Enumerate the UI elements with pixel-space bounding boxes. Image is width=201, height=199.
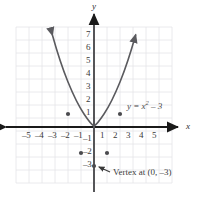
point-1-neg2 <box>105 151 109 155</box>
graph-figure: y x –5 –4 –3 –2 –1 1 2 3 4 5 7 6 5 4 3 2… <box>0 0 201 199</box>
x-tick--4: –4 <box>35 131 44 140</box>
x-tick-2: 2 <box>113 131 117 140</box>
point-2-1 <box>118 112 122 116</box>
equation-prefix: y = x <box>127 101 146 111</box>
point-neg2-1 <box>66 112 70 116</box>
x-axis-label: x <box>186 122 190 131</box>
y-tick-6: 6 <box>86 43 90 52</box>
x-tick-5: 5 <box>152 131 156 140</box>
y-tick-4: 4 <box>86 69 90 78</box>
y-tick-7: 7 <box>86 30 90 39</box>
x-tick-4: 4 <box>139 131 143 140</box>
x-tick--3: –3 <box>48 131 57 140</box>
vertex-pointer-arrow <box>99 167 110 172</box>
equation-suffix: – 3 <box>149 101 163 111</box>
y-tick--1: –1 <box>83 134 92 143</box>
y-tick-3: 3 <box>86 82 90 91</box>
y-tick--2: –2 <box>83 147 92 156</box>
y-tick--3: –3 <box>83 160 92 169</box>
y-tick-5: 5 <box>86 56 90 65</box>
x-tick-1: 1 <box>100 131 104 140</box>
x-tick--2: –2 <box>61 131 70 140</box>
point-vertex <box>92 164 96 168</box>
y-tick-2: 2 <box>86 95 90 104</box>
vertex-annotation: Vertex at (0, –3) <box>113 168 171 177</box>
y-tick-1: 1 <box>86 108 90 117</box>
y-axis-label: y <box>92 2 96 11</box>
equation-label: y = x2 – 3 <box>127 102 162 111</box>
x-tick--1: –1 <box>74 131 83 140</box>
x-tick--5: –5 <box>22 131 31 140</box>
x-tick-3: 3 <box>126 131 130 140</box>
